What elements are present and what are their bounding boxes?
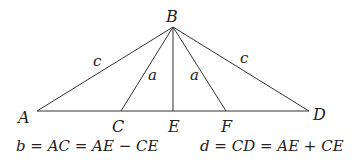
segment-BF xyxy=(173,27,226,111)
equation-left: b = AC = AE − CE xyxy=(16,137,158,155)
side-label-BF: a xyxy=(190,66,199,84)
equation-right: d = CD = AE + CE xyxy=(200,137,344,155)
point-label-F: F xyxy=(220,117,233,136)
point-label-E: E xyxy=(167,117,180,136)
point-label-D: D xyxy=(312,105,326,124)
side-label-BC: a xyxy=(148,66,157,84)
triangle-diagram: B A D C E F c a a c b = AC = AE − CE d =… xyxy=(0,0,353,164)
point-label-C: C xyxy=(112,117,124,136)
point-label-A: A xyxy=(16,108,30,127)
side-label-BD: c xyxy=(240,49,249,67)
segment-BC xyxy=(121,27,173,111)
side-label-AB: c xyxy=(93,52,102,70)
point-label-B: B xyxy=(165,7,178,26)
